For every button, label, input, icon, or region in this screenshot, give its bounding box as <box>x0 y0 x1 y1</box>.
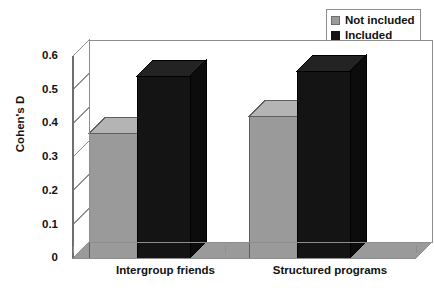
plot-area <box>0 0 434 296</box>
bar-2-black <box>297 55 366 258</box>
x-tick-structured-programs: Structured programs <box>240 264 420 276</box>
bar-chart: Not included Included Cohen's D 0.6 0.5 … <box>0 0 434 296</box>
bar-1-black <box>137 60 206 258</box>
x-tick-intergroup-friends: Intergroup friends <box>78 264 253 276</box>
